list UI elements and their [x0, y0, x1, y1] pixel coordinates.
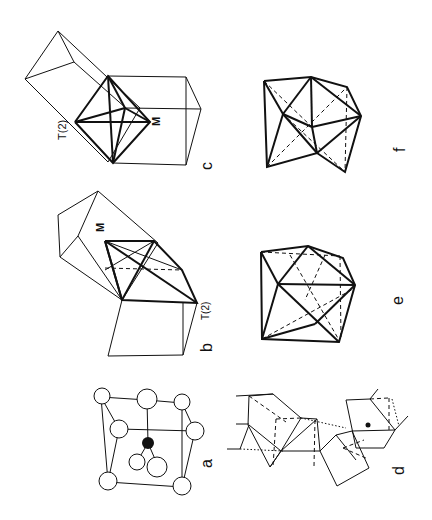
- atom: [147, 457, 167, 477]
- atom: [137, 389, 157, 409]
- panel-label-d: d: [390, 466, 407, 475]
- panel-e: e: [261, 246, 406, 342]
- panel-f: f: [264, 77, 408, 172]
- central-atom: [142, 437, 154, 449]
- atom: [174, 394, 190, 410]
- atom: [173, 477, 191, 495]
- panel-label-c: c: [198, 162, 215, 170]
- atom: [99, 472, 117, 490]
- atom: [186, 422, 204, 440]
- panel-c: T(2) M c: [25, 31, 215, 170]
- atom-label-t2: T(2): [200, 302, 211, 320]
- dark-atom: [366, 423, 371, 428]
- panel-b: M T(2) b: [58, 191, 215, 356]
- panel-label-e: e: [389, 296, 406, 305]
- panel-label-f: f: [391, 147, 408, 152]
- panel-d: d: [227, 389, 408, 486]
- atom-label-m: M: [150, 117, 162, 126]
- atom: [129, 454, 145, 470]
- atom: [110, 420, 128, 438]
- crystal-structure-figure: T(2) M c M T(2) b: [0, 0, 432, 520]
- panel-a: a: [94, 388, 215, 495]
- atom-label-m: M: [94, 223, 106, 232]
- atom-label-t2: T(2): [56, 120, 68, 140]
- panel-label-a: a: [198, 459, 215, 468]
- panel-label-b: b: [198, 343, 215, 352]
- atom: [94, 388, 110, 404]
